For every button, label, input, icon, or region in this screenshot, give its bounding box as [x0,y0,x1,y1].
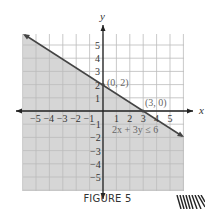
point-label-0-2: (0, 2) [107,77,129,89]
point-label-3-0: (3, 0) [145,97,167,109]
y-tick-label: 2 [95,80,100,91]
y-tick-label: 1 [95,93,100,104]
publisher-logo-icon [175,195,205,209]
point-3-0 [141,109,144,112]
y-axis-label: y [99,10,105,22]
y-tick-label: −3 [90,146,101,157]
point-0-2 [101,83,104,86]
x-tick-label: 2 [127,113,132,124]
y-tick-label: 4 [95,53,100,64]
x-tick-label: 3 [141,113,146,124]
x-tick-label: −4 [43,113,54,124]
x-tick-label: 1 [114,113,119,124]
y-tick-label: 3 [95,66,100,77]
x-axis-label: x [198,104,204,116]
y-tick-label: −1 [90,119,101,130]
inequality-label: 2x + 3y ≤ 6 [112,124,158,135]
x-tick-label: −2 [70,113,81,124]
x-tick-label: −3 [57,113,68,124]
y-tick-label: −4 [90,159,101,170]
inequality-graph: x y −5−4−3−2−112345 54321−1−2−3−4−5 (0, … [0,0,215,216]
y-tick-label: 5 [95,40,100,51]
x-tick-label: 4 [154,113,159,124]
x-tick-label: −5 [30,113,41,124]
x-tick-label: 5 [168,113,173,124]
y-tick-label: −5 [90,172,101,183]
y-tick-label: −2 [90,132,101,143]
